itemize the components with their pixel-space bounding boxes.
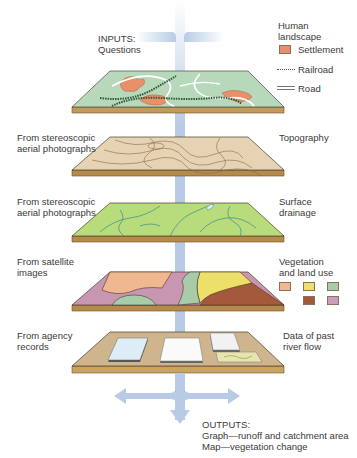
layer-name-line: Data of past (283, 330, 334, 341)
layer-name-line: drainage (279, 207, 316, 218)
record-map-sheet (216, 352, 262, 362)
source-line: aerial photographs (17, 207, 96, 218)
outputs-label: OUTPUTS: Graph—runoff and catchment area… (202, 419, 349, 452)
layer-river-flow (72, 332, 284, 373)
layer-name-line: Human (278, 20, 321, 31)
settlement-swatch-icon (279, 45, 291, 54)
source-line: aerial photographs (17, 143, 96, 154)
layer-name-surface-drainage: Surface drainage (279, 196, 316, 218)
vegetation-swatch-icon (327, 296, 339, 305)
source-line: From stereoscopic (17, 196, 96, 207)
outputs-line: Map—vegetation change (202, 441, 349, 452)
legend-railroad-label: Railroad (298, 64, 333, 75)
source-surface-drainage: From stereoscopic aerial photographs (17, 196, 96, 218)
vegetation-swatch-icon (279, 282, 291, 291)
layer-name-river-flow: Data of past river flow (283, 330, 334, 352)
vegetation-swatch-icon (327, 282, 339, 291)
layer-human-landscape (72, 71, 284, 113)
source-line: From agency (17, 330, 72, 341)
vegetation-swatch-icon (303, 282, 315, 291)
legend-settlement-label: Settlement (298, 44, 343, 55)
source-river-flow: From agency records (17, 330, 72, 352)
layer-topography (72, 137, 284, 176)
source-line: From satellite (17, 256, 74, 267)
layer-name-line: Vegetation (279, 256, 333, 267)
inputs-text: Questions (98, 44, 141, 55)
outputs-line: Graph—runoff and catchment area (202, 430, 349, 441)
inputs-heading: INPUTS: (98, 33, 141, 44)
layer-name-line: river flow (283, 341, 334, 352)
railroad-line-icon (277, 69, 295, 70)
output-arrows (114, 373, 240, 424)
inputs-label: INPUTS: Questions (98, 33, 141, 55)
layer-name-human-landscape: Human landscape (278, 20, 321, 42)
source-line: From stereoscopic (17, 132, 96, 143)
source-line: records (17, 341, 72, 352)
layer-name-line: and land use (279, 267, 333, 278)
layer-name-topography: Topography (279, 132, 329, 143)
layer-name-vegetation: Vegetation and land use (279, 256, 333, 278)
layer-name-line: landscape (278, 31, 321, 42)
source-vegetation: From satellite images (17, 256, 74, 278)
layer-surface-drainage (72, 203, 284, 242)
source-topography: From stereoscopic aerial photographs (17, 132, 96, 154)
legend-road-label: Road (298, 83, 321, 94)
layer-vegetation (72, 272, 284, 311)
source-line: images (17, 267, 74, 278)
road-line-icon (277, 86, 295, 90)
outputs-heading: OUTPUTS: (202, 419, 349, 430)
record-document-2 (160, 338, 203, 363)
layer-name-line: Surface (279, 196, 316, 207)
vegetation-swatch-icon (303, 296, 315, 305)
